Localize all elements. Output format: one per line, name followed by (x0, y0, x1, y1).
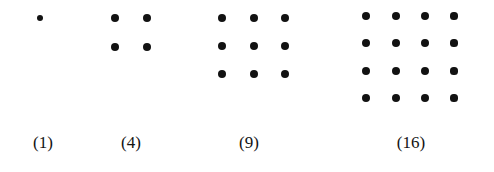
dot (281, 70, 289, 78)
dot (250, 42, 258, 50)
dot (218, 42, 226, 50)
dot (250, 14, 258, 22)
group-label-1: (1) (33, 134, 53, 151)
dot (37, 15, 44, 22)
dot (392, 94, 400, 102)
dot (450, 94, 457, 101)
group-label-9: (9) (239, 134, 259, 151)
dot (421, 12, 429, 20)
dot (392, 12, 400, 20)
dot (143, 14, 151, 22)
dot (111, 43, 119, 51)
dot (450, 67, 457, 74)
dot (421, 67, 429, 75)
dot (450, 39, 457, 46)
dot (362, 94, 370, 102)
dot (143, 43, 151, 51)
dot (392, 67, 400, 75)
dot (281, 42, 289, 50)
dot (450, 12, 457, 19)
dot (362, 39, 370, 47)
dot (421, 39, 429, 47)
dot (250, 70, 258, 78)
dot (362, 67, 370, 75)
group-label-4: (4) (121, 134, 141, 151)
dot (421, 94, 429, 102)
dot (111, 14, 119, 22)
dot (218, 70, 226, 78)
group-label-16: (16) (397, 134, 425, 151)
square-numbers-figure: (1) (4) (9) (16) (0, 0, 494, 172)
dot (281, 14, 289, 22)
dot (392, 39, 400, 47)
dot (362, 12, 370, 20)
dot (218, 14, 226, 22)
